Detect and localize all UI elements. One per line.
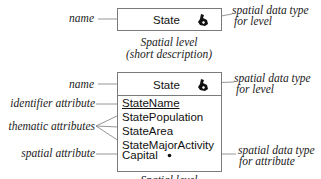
caption-short-description: (short description) [108,49,230,60]
point-icon [167,153,172,158]
label-name-short: name [40,13,94,24]
diagram-canvas: name State spatial data type for level S… [0,0,321,179]
label-thematic-attributes: thematic attributes [0,121,95,132]
attribute-thematic[interactable]: StateArea [122,125,173,138]
label-spatial-type-attribute-2: for attribute [239,156,295,167]
level-title: State [153,79,180,91]
caption-spatial-level: Spatial level [118,37,220,48]
label-spatial-attribute: spatial attribute [0,148,95,159]
label-name-full: name [40,79,94,90]
spatial-level-box-short[interactable]: State [117,8,222,31]
level-title: State [153,14,180,26]
attribute-spatial[interactable]: Capital [122,149,158,162]
attribute-identifier[interactable]: StateName [122,97,180,110]
spatial-level-box-full[interactable]: State StateName StatePopulation StateAre… [117,72,222,172]
header-divider [118,95,221,96]
label-identifier-attribute: identifier attribute [0,98,95,109]
attribute-thematic[interactable]: StatePopulation [122,111,203,124]
label-spatial-type-level-2: for level [236,84,274,95]
caption-spatial-level-full: Spatial level [118,175,220,179]
spatial-region-icon [197,78,209,92]
spatial-region-icon [197,13,209,27]
label-spatial-type-level-2: for level [234,16,272,27]
